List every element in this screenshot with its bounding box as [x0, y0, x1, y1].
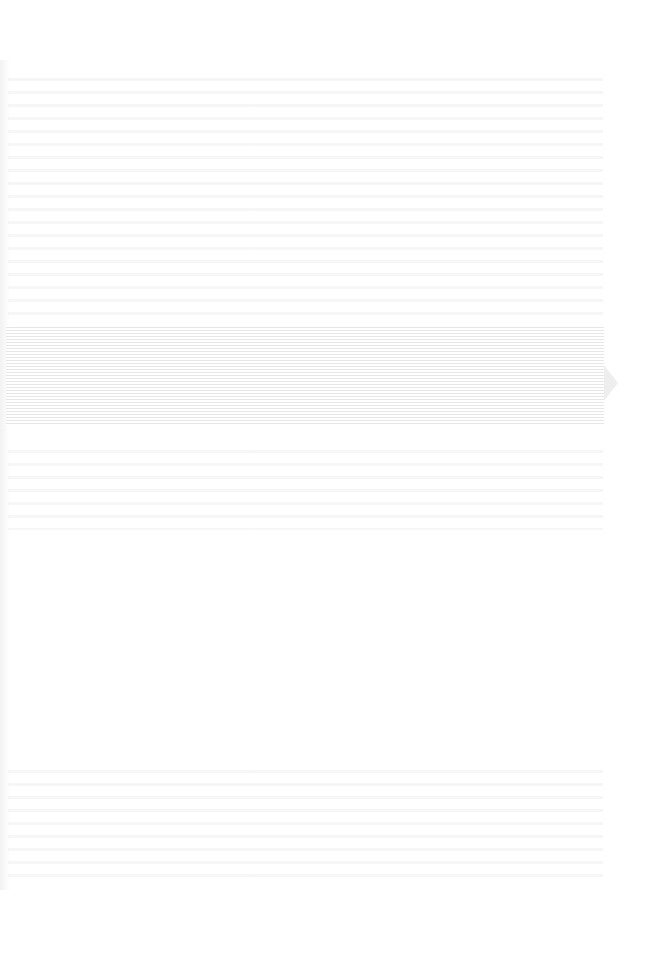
bleed-through-text-top: [8, 68, 603, 323]
bleed-through-hatched-band: [6, 325, 604, 425]
bleed-through-text-middle: [8, 440, 603, 530]
bleed-through-text-bottom: [8, 760, 603, 880]
